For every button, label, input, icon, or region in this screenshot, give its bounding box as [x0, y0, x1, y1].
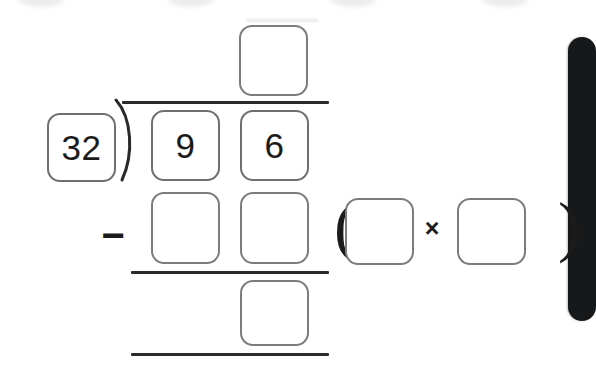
subtraction-icon: −	[96, 222, 130, 248]
multiplication-icon: ×	[419, 215, 445, 241]
subtrahend-ones-box[interactable]	[240, 192, 309, 264]
subtraction-rule	[131, 271, 329, 274]
division-bracket-icon	[110, 96, 150, 182]
close-paren: )	[558, 192, 581, 260]
dividend-tens-box[interactable]: 9	[151, 110, 220, 181]
vinculum-rule	[122, 101, 329, 104]
quotient-ones-box[interactable]	[239, 25, 308, 96]
check-right-factor-box[interactable]	[457, 198, 526, 265]
remainder-ones-box[interactable]	[240, 280, 309, 346]
check-left-factor-box[interactable]	[345, 198, 414, 265]
dividend-ones-box[interactable]: 6	[240, 110, 309, 181]
divisor-box[interactable]: 32	[47, 113, 116, 182]
subtrahend-tens-box[interactable]	[151, 192, 220, 264]
remainder-rule	[131, 353, 329, 356]
